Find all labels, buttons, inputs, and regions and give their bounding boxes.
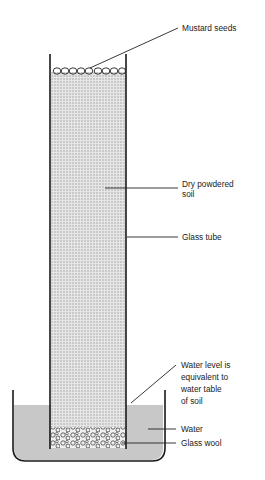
- leader-mustard-seeds: [90, 28, 178, 68]
- label-water-level-1: Water level is: [181, 360, 231, 370]
- label-water: Water: [181, 424, 203, 434]
- apparatus-diagram: [0, 0, 265, 480]
- label-dry-soil-2: soil: [182, 189, 194, 199]
- label-water-level-3: water table: [181, 384, 222, 394]
- label-dry-soil-1: Dry powdered: [182, 179, 234, 189]
- label-glass-tube: Glass tube: [182, 232, 222, 242]
- soil-column: [51, 72, 126, 427]
- label-water-level-2: equivalent to: [181, 372, 228, 382]
- label-water-level-4: of soil: [181, 396, 203, 406]
- label-mustard-seeds: Mustard seeds: [182, 23, 236, 33]
- leader-water-level: [131, 365, 176, 403]
- label-glass-wool: Glass wool: [181, 438, 222, 448]
- glass-wool: [51, 427, 126, 448]
